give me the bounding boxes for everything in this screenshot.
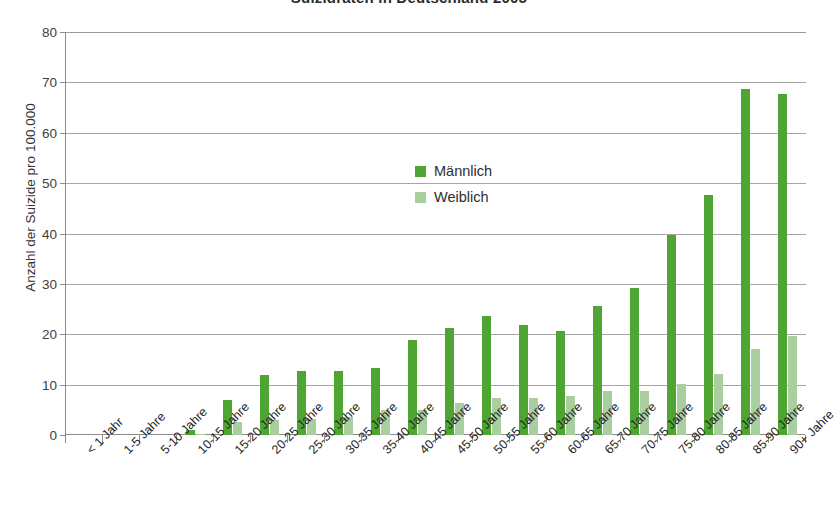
y-axis-tick-label: 70 [11, 75, 57, 90]
y-axis-tick-label: 0 [11, 428, 57, 443]
bars-layer [65, 32, 805, 435]
y-axis-tick-mark [60, 133, 65, 134]
bar-group [657, 32, 694, 435]
bar-group [102, 32, 139, 435]
bar-group [435, 32, 472, 435]
bar-group [250, 32, 287, 435]
bar-group [398, 32, 435, 435]
bar-group [213, 32, 250, 435]
y-axis-tick-label: 50 [11, 176, 57, 191]
legend-item[interactable]: Männlich [415, 158, 575, 184]
bar-group [139, 32, 176, 435]
bar-group [324, 32, 361, 435]
bar-group [731, 32, 768, 435]
bar-group [176, 32, 213, 435]
legend-swatch-icon [415, 192, 426, 203]
bar-male [667, 235, 676, 435]
y-axis-tick-mark [60, 284, 65, 285]
bar-group [287, 32, 324, 435]
y-axis-tick-labels: 01020304050607080 [0, 32, 57, 435]
bar-group [509, 32, 546, 435]
y-axis-tick-mark [60, 334, 65, 335]
legend-item-label: Weiblich [434, 189, 489, 205]
bar-group [472, 32, 509, 435]
bar-male [778, 94, 787, 435]
y-axis-tick-mark [60, 183, 65, 184]
bar-group [620, 32, 657, 435]
bar-group [546, 32, 583, 435]
bar-group [768, 32, 805, 435]
y-axis-tick-label: 30 [11, 276, 57, 291]
legend-swatch-icon [415, 166, 426, 177]
legend-item-label: Männlich [434, 163, 492, 179]
x-axis-tick-mark [65, 435, 66, 443]
y-axis-tick-label: 40 [11, 226, 57, 241]
bar-male [741, 89, 750, 435]
y-axis-tick-label: 60 [11, 125, 57, 140]
x-axis-tick-labels: < 1 Jahr1-5 Jahre5-10 Jahre10-15 Jahre15… [0, 445, 818, 529]
y-axis-tick-label: 80 [11, 25, 57, 40]
y-axis-tick-mark [60, 435, 65, 436]
bar-male [704, 195, 713, 435]
y-axis-tick-label: 20 [11, 327, 57, 342]
chart-legend: MännlichWeiblich [415, 158, 575, 210]
y-axis-tick-mark [60, 82, 65, 83]
y-axis-tick-mark [60, 385, 65, 386]
chart-title: Suizidraten in Deutschland 2005 [0, 0, 818, 6]
bar-group [694, 32, 731, 435]
bar-group [361, 32, 398, 435]
bar-group [65, 32, 102, 435]
y-axis-tick-label: 10 [11, 377, 57, 392]
y-axis-tick-mark [60, 32, 65, 33]
bar-group [583, 32, 620, 435]
y-axis-tick-mark [60, 234, 65, 235]
legend-item[interactable]: Weiblich [415, 184, 575, 210]
